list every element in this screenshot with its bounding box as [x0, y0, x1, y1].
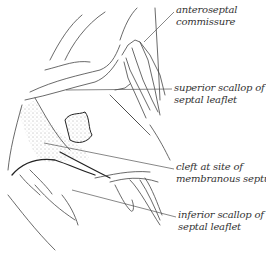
label-anteroseptal-commissure: anteroseptal commissure — [176, 4, 237, 28]
label-line: commissure — [176, 16, 237, 28]
label-line: septal leaflet — [174, 94, 264, 106]
leader-lines — [44, 12, 176, 217]
leader-line-anteroseptal — [144, 12, 174, 42]
stippled-cleft-region — [65, 112, 92, 142]
leader-line-inferior-scallop — [72, 190, 176, 217]
anatomical-illustration: anteroseptal commissure superior scallop… — [0, 0, 266, 257]
label-line: membranous septum — [176, 173, 266, 185]
label-line: superior scallop of — [174, 82, 264, 94]
label-line: septal leaflet — [178, 221, 264, 233]
leader-line-superior-scallop — [66, 89, 172, 90]
label-cleft-membranous-septum: cleft at site of membranous septum — [176, 161, 266, 185]
label-superior-scallop: superior scallop of septal leaflet — [174, 82, 264, 106]
label-line: inferior scallop of — [178, 209, 264, 221]
label-line: cleft at site of — [176, 161, 266, 173]
label-line: anteroseptal — [176, 4, 237, 16]
label-inferior-scallop: inferior scallop of septal leaflet — [178, 209, 264, 233]
